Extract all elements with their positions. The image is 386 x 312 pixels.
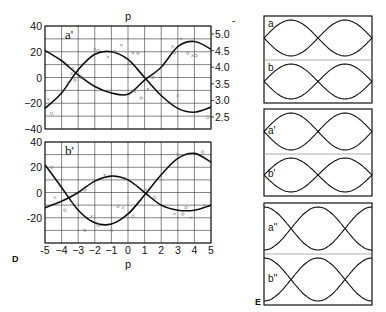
data-point <box>186 52 189 55</box>
y-tick-label: 40 <box>30 136 42 148</box>
data-point <box>147 88 150 91</box>
y-tick-label: −20 <box>24 97 42 109</box>
envelope-curve-upper <box>264 207 372 250</box>
envelope-curve-lower <box>264 258 372 301</box>
subplot-label: a' <box>65 27 73 42</box>
x-tick-label: 5 <box>208 244 214 256</box>
data-point <box>128 62 131 65</box>
x-tick-label: 3 <box>175 244 181 256</box>
envelope-curve-upper <box>264 258 372 301</box>
panel-e-group: a''b'' <box>264 203 372 305</box>
data-point <box>103 174 106 177</box>
x-tick-label: -5 <box>40 244 49 256</box>
data-point <box>50 112 53 115</box>
y-tick-label: 40 <box>30 20 42 32</box>
data-point <box>132 52 135 55</box>
y2-tick-label: 4.0 <box>215 61 230 73</box>
data-point <box>201 151 204 154</box>
data-point <box>72 67 75 70</box>
data-point <box>206 116 209 119</box>
envelope-panel: b' <box>264 158 372 192</box>
data-point <box>84 189 87 192</box>
figure-letter-e: E <box>255 297 261 307</box>
envelope-panel-label: a'' <box>268 222 277 233</box>
y2-tick-label: 5.0 <box>215 28 230 40</box>
data-point <box>172 45 175 48</box>
x-tick-label: −4 <box>56 244 68 256</box>
data-point <box>90 215 93 218</box>
envelope-panel: a'' <box>264 207 372 250</box>
panel-d-bottom: 40200-20 -5−4−3−2−1012345 b' p <box>27 136 214 270</box>
data-point <box>145 189 148 192</box>
data-point <box>107 56 110 59</box>
envelope-panel-label: b'' <box>268 273 277 284</box>
envelope-panel-label: a' <box>268 125 276 136</box>
data-point <box>173 52 176 55</box>
envelope-panel: b <box>264 62 372 99</box>
envelope-panel-label: b' <box>268 168 276 179</box>
data-point <box>133 90 136 93</box>
x-tick-label: 0 <box>125 244 131 256</box>
envelope-panel: a <box>264 18 372 56</box>
y-tick-label: 0 <box>36 72 42 84</box>
y2-tick-label: 3.0 <box>215 94 230 106</box>
data-point <box>140 97 143 100</box>
y2-tick-label: 2.5 <box>215 111 230 123</box>
envelope-panel: a' <box>264 113 372 150</box>
data-point <box>117 205 120 208</box>
data-point <box>122 206 125 209</box>
panel-d-top: 40200−20−40 5.04.54.03.53.02.5 a' p <box>24 10 230 135</box>
x-tick-label: 2 <box>158 244 164 256</box>
data-point <box>137 52 140 55</box>
data-point <box>132 215 135 218</box>
data-point <box>120 44 123 47</box>
y-tick-label: 20 <box>30 161 42 173</box>
panel-e-group: ab <box>264 16 372 103</box>
y-tick-labels: 40200-20 <box>27 136 42 224</box>
envelope-panel-label: b <box>268 62 274 73</box>
data-point <box>181 213 184 216</box>
x-axis-title: p <box>125 258 131 270</box>
x-tick-label: 4 <box>191 244 197 256</box>
panel-e-group: a'b' <box>264 109 372 196</box>
y2-tick-labels: 5.04.54.03.53.02.5 <box>211 28 230 123</box>
data-point <box>173 213 176 216</box>
y-tick-label: 0 <box>36 187 42 199</box>
envelope-curve-lower <box>264 113 372 150</box>
x-tick-label: −3 <box>72 244 84 256</box>
y-tick-label: −40 <box>24 123 42 135</box>
data-point <box>74 79 77 82</box>
data-point <box>191 54 194 57</box>
data-point <box>70 72 73 75</box>
y-tick-label: -20 <box>27 212 42 224</box>
figure-letter-d: D <box>12 254 19 264</box>
data-point <box>185 206 188 209</box>
data-point <box>195 54 198 57</box>
data-point <box>153 196 156 199</box>
x-tick-label: 1 <box>142 244 148 256</box>
envelope-curve-lower <box>264 207 372 250</box>
envelope-curve-lower <box>264 64 372 99</box>
data-point <box>64 209 67 212</box>
subplot-label: b' <box>65 143 74 158</box>
stray-mark: - <box>232 15 235 26</box>
y2-tick-label: 3.5 <box>215 78 230 90</box>
envelope-curve-lower <box>264 20 372 56</box>
envelope-curve-lower <box>264 158 372 192</box>
envelope-panel: b'' <box>264 258 372 301</box>
data-point <box>47 98 50 101</box>
top-axis-title: p <box>125 10 131 22</box>
group-frame <box>264 16 372 103</box>
data-point <box>54 196 57 199</box>
y-tick-labels: 40200−20−40 <box>24 20 42 135</box>
x-tick-labels: -5−4−3−2−1012345 <box>40 244 214 256</box>
envelope-panel-label: a <box>268 18 274 29</box>
figure-canvas: 40200−20−40 5.04.54.03.53.02.5 a' p 4020… <box>0 0 386 312</box>
x-tick-label: −2 <box>89 244 101 256</box>
y-tick-label: 20 <box>30 46 42 58</box>
data-point <box>97 49 100 52</box>
panel-e: aba'b'a''b'' <box>264 16 372 305</box>
group-frame <box>264 109 372 196</box>
x-tick-label: −1 <box>105 244 117 256</box>
y2-tick-label: 4.5 <box>215 45 230 57</box>
